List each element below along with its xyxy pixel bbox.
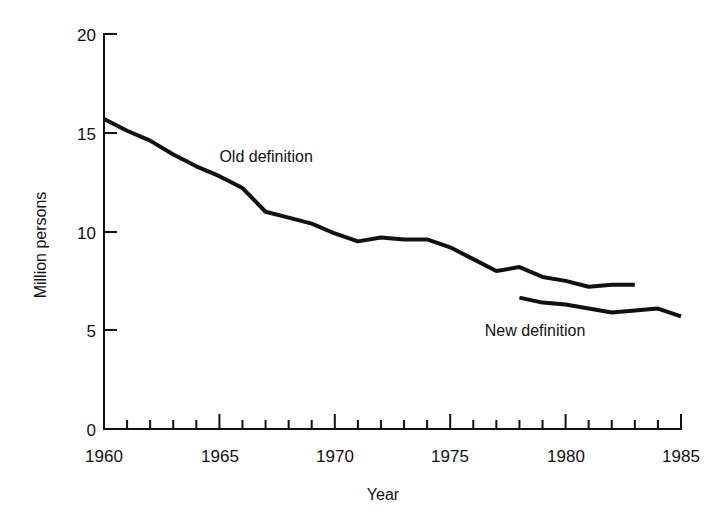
chart-container: 20 15 10 5 0 1960 1965 1970 1975 1980 19… — [0, 0, 725, 526]
x-axis-ticks — [104, 414, 681, 429]
x-tick-label-1975: 1975 — [431, 447, 469, 466]
y-axis-tick-labels: 20 15 10 5 0 — [77, 26, 96, 440]
series-label-new-definition: New definition — [485, 322, 586, 339]
y-tick-label-0: 0 — [87, 421, 96, 440]
y-tick-label-5: 5 — [87, 322, 96, 341]
data-line-new-definition — [519, 298, 681, 317]
y-tick-label-20: 20 — [77, 26, 96, 45]
x-tick-label-1960: 1960 — [85, 447, 123, 466]
y-axis-ticks — [104, 34, 117, 429]
x-axis-tick-labels: 1960 1965 1970 1975 1980 1985 — [85, 447, 700, 466]
x-tick-label-1985: 1985 — [662, 447, 700, 466]
x-tick-label-1970: 1970 — [316, 447, 354, 466]
x-axis-title: Year — [367, 486, 400, 503]
y-axis-title: Million persons — [32, 192, 49, 299]
line-chart-svg: 20 15 10 5 0 1960 1965 1970 1975 1980 19… — [0, 0, 725, 526]
y-tick-label-15: 15 — [77, 125, 96, 144]
y-tick-label-10: 10 — [77, 224, 96, 243]
x-tick-label-1965: 1965 — [201, 447, 239, 466]
series-label-old-definition: Old definition — [219, 148, 312, 165]
data-line-old-definition — [104, 119, 635, 287]
x-tick-label-1980: 1980 — [547, 447, 585, 466]
